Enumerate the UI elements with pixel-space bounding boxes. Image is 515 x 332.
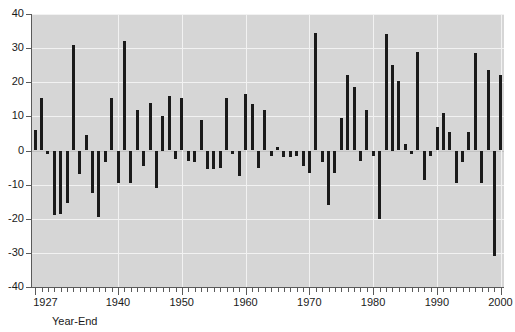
x-axis-minor-tick (258, 288, 259, 292)
x-axis-minor-tick (354, 288, 355, 292)
bar (40, 98, 43, 151)
chart-root: 403020100-10-20-30-40 192719401950196019… (0, 0, 515, 332)
bar (206, 151, 209, 170)
x-axis-minor-tick (418, 288, 419, 292)
x-axis-minor-tick (348, 288, 349, 292)
x-axis-minor-tick (144, 288, 145, 292)
bar (321, 151, 324, 163)
gridline-vertical (501, 14, 502, 287)
bar (200, 120, 203, 151)
x-axis-minor-tick (399, 288, 400, 292)
bar (302, 151, 305, 166)
x-axis-minor-tick (469, 288, 470, 292)
bar (238, 151, 241, 177)
x-axis-minor-tick (176, 288, 177, 292)
bar (136, 110, 139, 151)
bar (416, 52, 419, 151)
bar (404, 144, 407, 151)
x-axis-minor-tick (431, 288, 432, 292)
x-axis-minor-tick (156, 288, 157, 292)
gridline-horizontal (32, 82, 504, 83)
bar (66, 151, 69, 204)
x-axis-minor-tick (73, 288, 74, 292)
y-axis-tick (26, 48, 31, 49)
x-axis-minor-tick (380, 288, 381, 292)
x-axis-minor-tick (424, 288, 425, 292)
y-axis-tick-label: 0 (0, 145, 24, 156)
x-axis-minor-tick (124, 288, 125, 292)
bar (72, 45, 75, 151)
bar (327, 151, 330, 206)
x-axis-tick-label: 1927 (33, 297, 57, 308)
bar (282, 151, 285, 158)
gridline-vertical (182, 14, 183, 287)
x-axis-minor-tick (265, 288, 266, 292)
x-axis-tick-label: 2000 (488, 297, 512, 308)
bar (397, 81, 400, 151)
bar (314, 33, 317, 151)
x-axis-minor-tick (54, 288, 55, 292)
x-axis-minor-tick (150, 288, 151, 292)
bar (142, 151, 145, 166)
x-axis-minor-tick (297, 288, 298, 292)
bar (219, 151, 222, 168)
bar (461, 151, 464, 163)
gridline-vertical (437, 14, 438, 287)
bar (359, 151, 362, 161)
bar (333, 151, 336, 173)
x-axis-minor-tick (392, 288, 393, 292)
bar (429, 151, 432, 156)
x-axis-minor-tick (271, 288, 272, 292)
bar (85, 135, 88, 150)
y-axis-tick (26, 151, 31, 152)
bar (340, 118, 343, 150)
y-axis-tick (26, 219, 31, 220)
y-axis-tick-label: 30 (0, 42, 24, 53)
bar (270, 151, 273, 156)
x-axis-minor-tick (450, 288, 451, 292)
x-axis-minor-tick (93, 288, 94, 292)
x-axis-minor-tick (335, 288, 336, 292)
y-axis-tick-label: -40 (0, 281, 24, 292)
y-axis-tick (26, 253, 31, 254)
gridline-horizontal (32, 185, 504, 186)
x-axis-minor-tick (443, 288, 444, 292)
x-axis-minor-tick (195, 288, 196, 292)
gridline-horizontal (32, 48, 504, 49)
bar (353, 87, 356, 150)
bar (104, 151, 107, 163)
gridline-horizontal (32, 116, 504, 117)
x-axis-major-tick (35, 288, 36, 295)
x-axis-minor-tick (488, 288, 489, 292)
x-axis-line (31, 287, 504, 288)
x-axis-minor-tick (169, 288, 170, 292)
x-axis-minor-tick (61, 288, 62, 292)
x-axis-minor-tick (405, 288, 406, 292)
zero-line (32, 151, 504, 152)
x-axis-major-tick (182, 288, 183, 295)
bar (225, 98, 228, 151)
x-axis-minor-tick (252, 288, 253, 292)
y-axis-tick-label: 40 (0, 8, 24, 19)
bar (193, 151, 196, 163)
bar (155, 151, 158, 189)
bar (251, 104, 254, 150)
bar (212, 151, 215, 170)
y-axis-tick (26, 116, 31, 117)
x-axis-tick-label: 1970 (297, 297, 321, 308)
y-axis-tick-label: 10 (0, 110, 24, 121)
x-axis-minor-tick (67, 288, 68, 292)
x-axis-minor-tick (220, 288, 221, 292)
bar (308, 151, 311, 173)
x-axis-minor-tick (290, 288, 291, 292)
x-axis-major-tick (246, 288, 247, 295)
x-axis-major-tick (309, 288, 310, 295)
x-axis-minor-tick (201, 288, 202, 292)
x-axis-tick-label: 1960 (233, 297, 257, 308)
x-axis-minor-tick (214, 288, 215, 292)
x-axis-minor-tick (341, 288, 342, 292)
x-axis-minor-tick (48, 288, 49, 292)
bar (391, 65, 394, 150)
y-axis-tick-label: -20 (0, 213, 24, 224)
y-axis-tick-label: -10 (0, 179, 24, 190)
